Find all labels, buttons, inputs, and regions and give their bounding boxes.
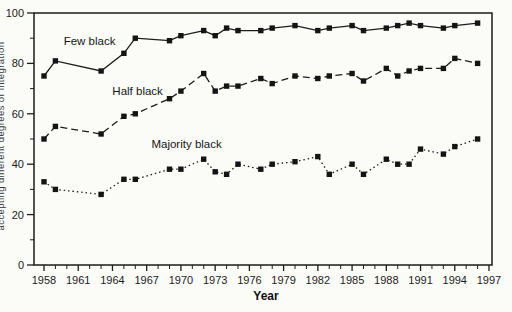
data-point-few-black — [315, 28, 320, 33]
figure: 0204060801001958196119641967197019731976… — [0, 0, 512, 312]
x-tick-label: 1997 — [477, 274, 501, 286]
data-point-half-black — [178, 88, 183, 93]
data-point-few-black — [213, 33, 218, 38]
data-point-few-black — [395, 23, 400, 28]
x-tick-label: 1985 — [340, 274, 364, 286]
data-point-majority-black — [406, 162, 411, 167]
data-point-few-black — [167, 38, 172, 43]
data-point-half-black — [235, 83, 240, 88]
data-point-half-black — [475, 61, 480, 66]
data-point-few-black — [133, 36, 138, 41]
data-point-few-black — [201, 28, 206, 33]
data-point-few-black — [361, 28, 366, 33]
data-point-half-black — [224, 83, 229, 88]
x-tick-label: 1982 — [306, 274, 330, 286]
x-tick-label: 1988 — [374, 274, 398, 286]
data-point-half-black — [201, 71, 206, 76]
data-point-half-black — [452, 56, 457, 61]
x-tick-label: 1979 — [271, 274, 295, 286]
data-point-majority-black — [98, 192, 103, 197]
data-point-majority-black — [418, 146, 423, 151]
data-point-few-black — [235, 28, 240, 33]
y-tick-label: 100 — [6, 7, 24, 19]
axes: 0204060801001958196119641967197019731976… — [6, 7, 502, 286]
y-tick-label: 0 — [18, 259, 24, 271]
x-tick-label: 1964 — [100, 274, 124, 286]
series-label-majority-black: Majority black — [151, 138, 222, 150]
data-point-few-black — [178, 33, 183, 38]
data-point-half-black — [41, 136, 46, 141]
data-point-half-black — [395, 73, 400, 78]
x-tick-label: 1973 — [203, 274, 227, 286]
y-tick-label: 80 — [12, 57, 24, 69]
data-point-few-black — [258, 28, 263, 33]
data-point-half-black — [349, 71, 354, 76]
data-point-few-black — [441, 25, 446, 30]
series-line-half-black — [44, 58, 478, 139]
data-point-majority-black — [292, 159, 297, 164]
chart-canvas: 0204060801001958196119641967197019731976… — [0, 0, 512, 312]
series-label-half-black: Half black — [112, 85, 163, 97]
data-point-half-black — [315, 76, 320, 81]
data-point-half-black — [121, 114, 126, 119]
data-point-majority-black — [133, 177, 138, 182]
data-point-few-black — [121, 51, 126, 56]
series-label-few-black: Few black — [64, 35, 116, 47]
data-point-half-black — [292, 73, 297, 78]
data-point-few-black — [475, 20, 480, 25]
data-point-half-black — [327, 73, 332, 78]
data-point-half-black — [441, 66, 446, 71]
data-point-few-black — [292, 23, 297, 28]
data-point-majority-black — [258, 167, 263, 172]
y-tick-label: 40 — [12, 158, 24, 170]
data-point-majority-black — [384, 157, 389, 162]
data-point-majority-black — [315, 154, 320, 159]
series — [41, 20, 480, 197]
data-point-majority-black — [178, 167, 183, 172]
data-point-majority-black — [395, 162, 400, 167]
data-point-few-black — [98, 68, 103, 73]
data-point-half-black — [213, 88, 218, 93]
y-tick-label: 20 — [12, 209, 24, 221]
plot-border — [34, 13, 492, 265]
data-point-few-black — [327, 25, 332, 30]
data-point-majority-black — [475, 136, 480, 141]
data-point-majority-black — [41, 179, 46, 184]
data-point-few-black — [452, 23, 457, 28]
data-point-few-black — [41, 73, 46, 78]
x-tick-label: 1991 — [408, 274, 432, 286]
data-point-majority-black — [53, 187, 58, 192]
data-point-half-black — [406, 68, 411, 73]
data-point-half-black — [361, 78, 366, 83]
data-point-majority-black — [235, 162, 240, 167]
x-tick-label: 1958 — [32, 274, 56, 286]
data-point-few-black — [53, 58, 58, 63]
data-point-half-black — [53, 124, 58, 129]
data-point-half-black — [133, 111, 138, 116]
x-tick-label: 1994 — [443, 274, 467, 286]
data-point-majority-black — [213, 169, 218, 174]
data-point-majority-black — [361, 172, 366, 177]
data-point-majority-black — [121, 177, 126, 182]
data-point-few-black — [418, 23, 423, 28]
x-tick-label: 1961 — [66, 274, 90, 286]
data-point-few-black — [406, 20, 411, 25]
data-point-majority-black — [327, 172, 332, 177]
y-tick-label: 60 — [12, 108, 24, 120]
data-point-majority-black — [224, 172, 229, 177]
y-axis-title: accepting different degrees of integrati… — [0, 42, 6, 231]
data-point-few-black — [349, 23, 354, 28]
data-point-few-black — [224, 25, 229, 30]
x-tick-label: 1976 — [237, 274, 261, 286]
data-point-majority-black — [167, 167, 172, 172]
data-point-majority-black — [441, 151, 446, 156]
data-point-half-black — [258, 76, 263, 81]
data-point-half-black — [98, 131, 103, 136]
data-point-majority-black — [452, 144, 457, 149]
x-tick-label: 1970 — [169, 274, 193, 286]
data-point-majority-black — [349, 162, 354, 167]
data-point-half-black — [418, 66, 423, 71]
data-point-majority-black — [201, 157, 206, 162]
data-point-half-black — [167, 96, 172, 101]
data-point-few-black — [384, 25, 389, 30]
